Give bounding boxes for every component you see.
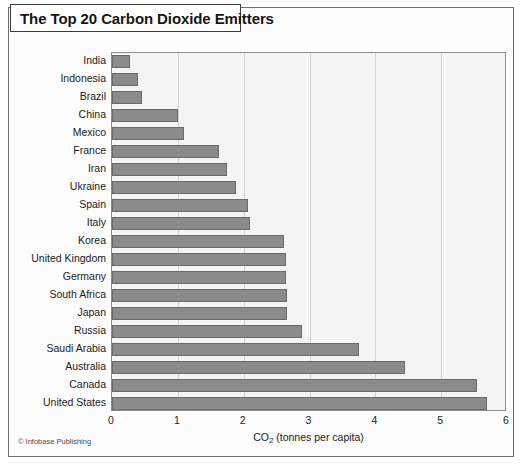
bar-row (112, 145, 507, 158)
y-axis-label-australia: Australia (6, 360, 111, 373)
bar-row (112, 307, 507, 320)
y-axis-label-korea: Korea (6, 234, 111, 247)
y-axis-label-china: China (6, 108, 111, 121)
bar-iran (112, 163, 227, 176)
bar-row (112, 91, 507, 104)
x-axis-tick-1: 1 (162, 414, 192, 426)
plot-area (111, 52, 506, 411)
bar-saudi-arabia (112, 343, 359, 356)
x-axis-title-prefix: CO (253, 431, 269, 443)
y-axis-labels: IndiaIndonesiaBrazilChinaMexicoFranceIra… (0, 52, 111, 411)
x-axis-title-suffix: (tonnes per capita) (273, 431, 363, 443)
y-axis-label-italy: Italy (6, 216, 111, 229)
bar-row (112, 73, 507, 86)
bar-row (112, 361, 507, 374)
bar-brazil (112, 91, 142, 104)
x-axis-tick-0: 0 (96, 414, 126, 426)
y-axis-label-iran: Iran (6, 162, 111, 175)
bar-row (112, 163, 507, 176)
chart-figure: The Top 20 Carbon Dioxide Emitters India… (0, 0, 526, 470)
bar-row (112, 343, 507, 356)
gridline (244, 53, 245, 410)
y-axis-label-indonesia: Indonesia (6, 72, 111, 85)
bar-row (112, 289, 507, 302)
page-title: The Top 20 Carbon Dioxide Emitters (11, 10, 274, 27)
x-axis-title: CO2 (tonnes per capita) (111, 431, 506, 445)
bar-ukraine (112, 181, 236, 194)
y-axis-label-russia: Russia (6, 324, 111, 337)
y-axis-label-japan: Japan (6, 306, 111, 319)
bar-row (112, 109, 507, 122)
y-axis-label-south-africa: South Africa (6, 288, 111, 301)
bar-united-states (112, 397, 487, 410)
x-axis-tick-4: 4 (359, 414, 389, 426)
gridline (178, 53, 179, 410)
credit-line: © Infobase Publishing (18, 437, 91, 446)
y-axis-label-germany: Germany (6, 270, 111, 283)
bar-canada (112, 379, 477, 392)
x-axis-ticks: 0123456 (111, 414, 506, 430)
gridline (441, 53, 442, 410)
bar-row (112, 199, 507, 212)
bar-italy (112, 217, 250, 230)
bar-indonesia (112, 73, 138, 86)
bar-united-kingdom (112, 253, 286, 266)
y-axis-label-ukraine: Ukraine (6, 180, 111, 193)
bar-germany (112, 271, 286, 284)
bar-row (112, 325, 507, 338)
y-axis-label-united-kingdom: United Kingdom (6, 252, 111, 265)
y-axis-label-mexico: Mexico (6, 126, 111, 139)
bar-row (112, 379, 507, 392)
y-axis-label-canada: Canada (6, 378, 111, 391)
bar-mexico (112, 127, 184, 140)
x-axis-tick-5: 5 (425, 414, 455, 426)
x-axis-tick-3: 3 (294, 414, 324, 426)
y-axis-label-united-states: United States (6, 396, 111, 409)
bar-row (112, 55, 507, 68)
y-axis-label-france: France (6, 144, 111, 157)
chart-title-box: The Top 20 Carbon Dioxide Emitters (10, 4, 241, 32)
bar-row (112, 271, 507, 284)
x-axis-tick-6: 6 (491, 414, 521, 426)
bar-row (112, 127, 507, 140)
bar-australia (112, 361, 405, 374)
bar-china (112, 109, 178, 122)
bar-korea (112, 235, 284, 248)
gridline (375, 53, 376, 410)
plot-inner (112, 53, 505, 410)
y-axis-label-spain: Spain (6, 198, 111, 211)
bar-france (112, 145, 219, 158)
bar-row (112, 217, 507, 230)
bar-row (112, 253, 507, 266)
bar-south-africa (112, 289, 287, 302)
bar-row (112, 235, 507, 248)
bar-row (112, 397, 507, 410)
bar-india (112, 55, 130, 68)
y-axis-label-saudi-arabia: Saudi Arabia (6, 342, 111, 355)
y-axis-label-india: India (6, 54, 111, 67)
x-axis-tick-2: 2 (228, 414, 258, 426)
bar-russia (112, 325, 302, 338)
bar-japan (112, 307, 287, 320)
bar-row (112, 181, 507, 194)
gridline (310, 53, 311, 410)
y-axis-label-brazil: Brazil (6, 90, 111, 103)
bar-spain (112, 199, 248, 212)
